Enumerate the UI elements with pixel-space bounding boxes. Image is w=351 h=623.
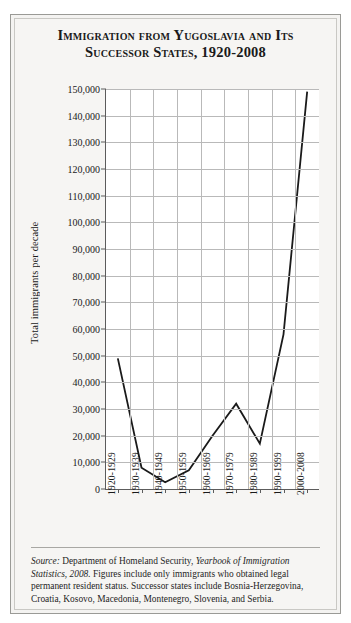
source-label: Source: bbox=[31, 556, 60, 566]
y-axis-tick bbox=[101, 462, 106, 463]
plot-area: 010,00020,00030,00040,00050,00060,00070,… bbox=[105, 89, 319, 490]
y-axis-tick bbox=[101, 329, 106, 330]
x-gridline bbox=[272, 89, 273, 489]
x-axis-tick bbox=[307, 489, 308, 493]
y-axis-tick-label: 60,000 bbox=[73, 324, 101, 335]
x-axis-tick-label: 1980-1989 bbox=[249, 452, 259, 495]
y-gridline bbox=[106, 276, 319, 277]
figure-inner-border: Immigration from Yugoslavia and Its Succ… bbox=[14, 18, 337, 610]
y-gridline bbox=[106, 169, 319, 170]
y-axis-tick bbox=[101, 195, 106, 196]
x-gridline bbox=[177, 89, 178, 489]
chart-title: Immigration from Yugoslavia and Its Succ… bbox=[27, 27, 324, 61]
x-axis-tick-label: 1960-1969 bbox=[202, 452, 212, 495]
series-line bbox=[118, 92, 307, 483]
y-gridline bbox=[106, 356, 319, 357]
page-bleed-text bbox=[8, 0, 343, 13]
x-gridline bbox=[224, 89, 225, 489]
y-axis-tick-label: 150,000 bbox=[68, 84, 101, 95]
x-axis-tick-label: 1930-1939 bbox=[131, 452, 141, 495]
y-gridline bbox=[106, 249, 319, 250]
y-gridline bbox=[106, 222, 319, 223]
y-axis-tick-label: 30,000 bbox=[73, 404, 101, 415]
x-axis-tick bbox=[142, 489, 143, 493]
y-axis-tick bbox=[101, 435, 106, 436]
y-gridline bbox=[106, 142, 319, 143]
source-divider bbox=[31, 547, 320, 548]
figure-container: Immigration from Yugoslavia and Its Succ… bbox=[10, 14, 341, 614]
y-axis-tick-label: 110,000 bbox=[68, 190, 100, 201]
y-axis-tick bbox=[101, 302, 106, 303]
line-series bbox=[106, 89, 319, 489]
y-axis-tick bbox=[101, 142, 106, 143]
x-axis-tick bbox=[189, 489, 190, 493]
y-gridline bbox=[106, 89, 319, 90]
y-axis-tick bbox=[101, 355, 106, 356]
x-axis-tick bbox=[213, 489, 214, 493]
y-axis-tick bbox=[101, 222, 106, 223]
y-axis-tick bbox=[101, 489, 106, 490]
x-axis-tick-label: 1990-1999 bbox=[273, 452, 283, 495]
y-axis-tick-label: 140,000 bbox=[68, 110, 101, 121]
y-gridline bbox=[106, 382, 319, 383]
y-axis-tick-label: 100,000 bbox=[68, 217, 101, 228]
x-axis-tick bbox=[236, 489, 237, 493]
x-gridline bbox=[248, 89, 249, 489]
page-root: Immigration from Yugoslavia and Its Succ… bbox=[0, 0, 351, 623]
y-axis-tick-label: 50,000 bbox=[73, 350, 101, 361]
x-axis-tick bbox=[165, 489, 166, 493]
y-axis-tick bbox=[101, 249, 106, 250]
y-axis-tick-label: 10,000 bbox=[73, 457, 101, 468]
x-axis-tick-label: 2000-2008 bbox=[296, 452, 306, 495]
y-axis-tick bbox=[101, 382, 106, 383]
x-axis-tick-label: 1950-1959 bbox=[178, 452, 188, 495]
source-note: Source: Department of Homeland Security,… bbox=[31, 555, 322, 605]
y-gridline bbox=[106, 436, 319, 437]
x-axis-tick bbox=[260, 489, 261, 493]
x-gridline bbox=[130, 89, 131, 489]
y-axis-tick bbox=[101, 115, 106, 116]
y-axis-tick-label: 20,000 bbox=[73, 430, 101, 441]
y-gridline bbox=[106, 196, 319, 197]
y-axis-tick bbox=[101, 275, 106, 276]
x-axis-tick bbox=[118, 489, 119, 493]
x-gridline bbox=[201, 89, 202, 489]
x-gridline bbox=[295, 89, 296, 489]
y-gridline bbox=[106, 116, 319, 117]
x-gridline bbox=[153, 89, 154, 489]
y-axis-tick bbox=[101, 89, 106, 90]
y-axis-tick bbox=[101, 409, 106, 410]
y-axis-title: Total immigrants per decade bbox=[29, 183, 45, 383]
x-axis-tick-label: 1970-1979 bbox=[225, 452, 235, 495]
x-axis-tick bbox=[284, 489, 285, 493]
y-axis-tick-label: 90,000 bbox=[73, 244, 101, 255]
y-gridline bbox=[106, 409, 319, 410]
y-axis-tick-label: 40,000 bbox=[73, 377, 101, 388]
x-axis-tick-label: 1940-1949 bbox=[154, 452, 164, 495]
y-axis-tick bbox=[101, 169, 106, 170]
y-gridline bbox=[106, 329, 319, 330]
y-axis-tick-label: 120,000 bbox=[68, 164, 101, 175]
plot-wrapper: Total immigrants per decade 010,00020,00… bbox=[15, 73, 346, 505]
source-text-part1: Department of Homeland Security, bbox=[60, 556, 196, 566]
y-axis-tick-label: 70,000 bbox=[73, 297, 101, 308]
y-axis-tick-label: 130,000 bbox=[68, 137, 101, 148]
y-axis-tick-label: 0 bbox=[95, 484, 100, 495]
y-gridline bbox=[106, 302, 319, 303]
x-axis-tick-label: 1920-1929 bbox=[107, 452, 117, 495]
y-axis-tick-label: 80,000 bbox=[73, 270, 101, 281]
